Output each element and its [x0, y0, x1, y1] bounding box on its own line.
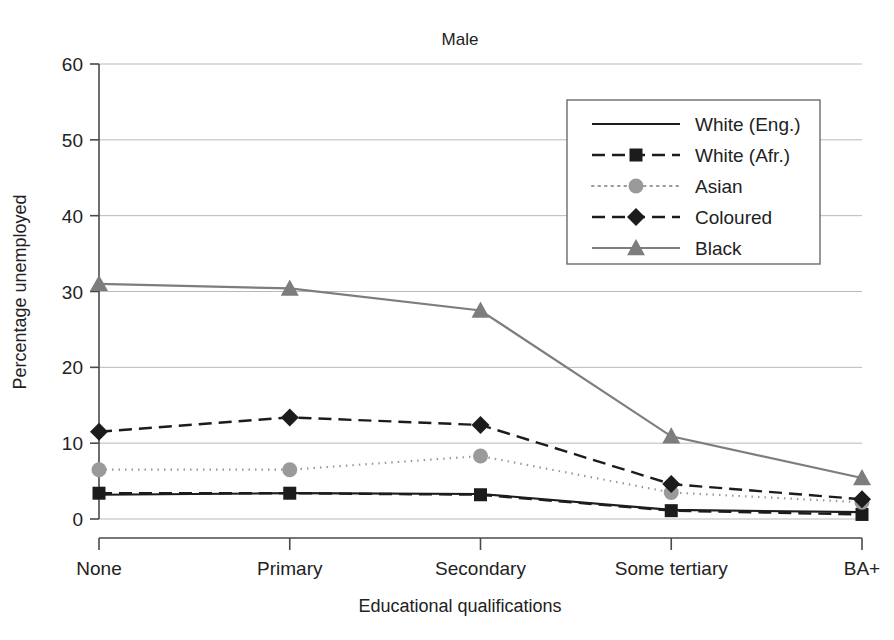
marker-square — [283, 487, 296, 500]
y-tick-label: 60 — [62, 54, 83, 75]
legend-label: White (Eng.) — [695, 114, 801, 135]
legend-label: Asian — [695, 176, 743, 197]
legend-label: White (Afr.) — [695, 145, 790, 166]
x-axis-title: Educational qualifications — [358, 596, 561, 616]
y-axis-group: 0102030405060 — [62, 54, 99, 530]
x-tick-label: Some tertiary — [615, 558, 728, 579]
marker-circle — [282, 462, 297, 477]
marker-circle — [92, 462, 107, 477]
x-tick-label: None — [76, 558, 121, 579]
marker-circle — [629, 179, 644, 194]
y-tick-label: 40 — [62, 206, 83, 227]
y-tick-label: 10 — [62, 433, 83, 454]
y-tick-label: 0 — [72, 509, 83, 530]
x-axis-group: NonePrimarySecondarySome tertiaryBA+ — [76, 538, 880, 579]
series-white-afr — [93, 487, 869, 521]
series-group — [90, 275, 871, 521]
x-tick-label: BA+ — [844, 558, 880, 579]
x-tick-label: Secondary — [435, 558, 526, 579]
marker-square — [856, 508, 869, 521]
marker-diamond — [472, 416, 490, 434]
x-tick-label: Primary — [257, 558, 323, 579]
chart-figure: 0102030405060 NonePrimarySecondarySome t… — [0, 0, 894, 640]
marker-diamond — [90, 423, 108, 441]
chart-title: Male — [442, 30, 479, 49]
marker-square — [665, 504, 678, 517]
y-tick-label: 50 — [62, 130, 83, 151]
marker-triangle — [662, 427, 680, 443]
legend-label: Black — [695, 238, 742, 259]
y-tick-label: 20 — [62, 357, 83, 378]
marker-square — [474, 488, 487, 501]
y-tick-label: 30 — [62, 282, 83, 303]
marker-square — [630, 149, 643, 162]
legend-group: White (Eng.)White (Afr.)AsianColouredBla… — [567, 100, 820, 264]
line-chart-svg: 0102030405060 NonePrimarySecondarySome t… — [0, 0, 894, 640]
marker-diamond — [281, 408, 299, 426]
marker-square — [93, 487, 106, 500]
legend-label: Coloured — [695, 207, 772, 228]
y-axis-title: Percentage unemployed — [10, 194, 30, 389]
marker-circle — [473, 449, 488, 464]
